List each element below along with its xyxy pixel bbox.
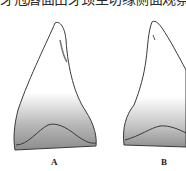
tooth-figure-a-icon	[0, 0, 186, 171]
figure-label-b: B	[161, 157, 167, 167]
figure-label-a: A	[51, 157, 58, 167]
